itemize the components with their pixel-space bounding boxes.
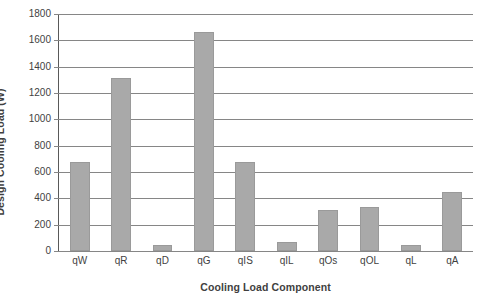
x-axis-tick-label-qA: qA [432, 256, 473, 266]
y-axis-tick-mark [54, 14, 58, 15]
x-axis-tick-label-qOs: qOs [307, 256, 348, 266]
x-axis-tick-label-qL: qL [390, 256, 431, 266]
bar-qIL[interactable] [277, 242, 297, 251]
bar-slot [183, 14, 224, 251]
x-axis-tick-label-qOL: qOL [349, 256, 390, 266]
y-axis-tick-mark [54, 67, 58, 68]
y-axis-tick-label: 1000 [29, 114, 51, 124]
bar-qOs[interactable] [318, 210, 338, 251]
y-axis-tick-label: 1200 [29, 88, 51, 98]
y-axis-tick-mark [54, 251, 58, 252]
bar-slot [59, 14, 100, 251]
bar-qG[interactable] [194, 32, 214, 251]
y-axis-tick-label: 200 [34, 220, 51, 230]
x-axis-tick-label-qG: qG [183, 256, 224, 266]
bar-qOL[interactable] [360, 207, 380, 251]
y-axis-tick-mark [54, 93, 58, 94]
bar-slot [225, 14, 266, 251]
bar-qA[interactable] [442, 192, 462, 251]
bar-slot [307, 14, 348, 251]
bars-group [59, 14, 473, 251]
y-axis-title: Design Cooling Load (W) [0, 0, 34, 304]
x-axis-tick-label-qD: qD [142, 256, 183, 266]
y-axis-tick-label: 600 [34, 167, 51, 177]
bar-qD[interactable] [153, 245, 173, 251]
y-axis-tick-mark [54, 146, 58, 147]
bar-slot [349, 14, 390, 251]
x-axis-tick-label-qW: qW [59, 256, 100, 266]
y-axis-tick-mark [54, 198, 58, 199]
y-axis-tick-label: 1400 [29, 62, 51, 72]
y-axis-tick-label: 800 [34, 141, 51, 151]
bar-qIS[interactable] [235, 162, 255, 251]
bar-qL[interactable] [401, 245, 421, 251]
bar-chart: Design Cooling Load (W) 1800160014001200… [0, 0, 487, 304]
bar-slot [142, 14, 183, 251]
x-axis-tick-labels: qWqRqDqGqISqILqOsqOLqLqA [59, 256, 473, 266]
bar-qR[interactable] [111, 78, 131, 251]
x-axis-tick-label-qIS: qIS [225, 256, 266, 266]
gridline [58, 251, 473, 252]
plot-area: 180016001400120010008006004002000 [58, 14, 473, 251]
y-axis-tick-label: 1600 [29, 35, 51, 45]
x-axis-tick-label-qR: qR [100, 256, 141, 266]
y-axis-tick-label: 1800 [29, 9, 51, 19]
y-axis-tick-label: 0 [45, 246, 51, 256]
y-axis-tick-mark [54, 119, 58, 120]
bar-slot [432, 14, 473, 251]
x-axis-title: Cooling Load Component [58, 281, 473, 293]
bar-slot [390, 14, 431, 251]
y-axis-tick-label: 400 [34, 193, 51, 203]
y-axis-tick-mark [54, 172, 58, 173]
bar-qW[interactable] [70, 162, 90, 251]
bar-slot [100, 14, 141, 251]
x-axis-tick-label-qIL: qIL [266, 256, 307, 266]
y-axis-tick-mark [54, 40, 58, 41]
bar-slot [266, 14, 307, 251]
y-axis-tick-mark [54, 225, 58, 226]
